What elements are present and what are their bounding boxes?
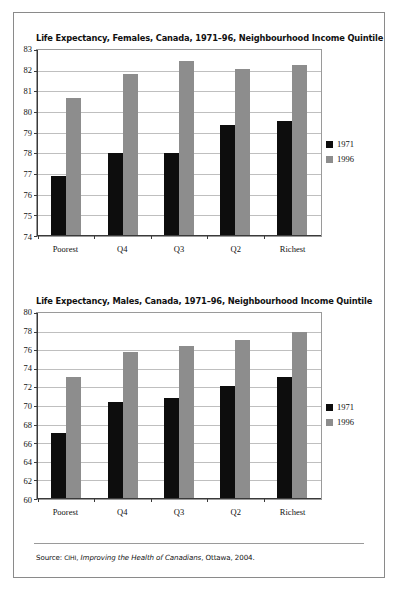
- legend-label-1996: 1996: [337, 154, 354, 164]
- x-tick-label: Q2: [207, 507, 264, 517]
- bar-1996: [179, 61, 194, 235]
- legend-label-1971: 1971: [337, 402, 354, 412]
- bar-1996: [66, 98, 81, 235]
- chart-panel-females: Life Expectancy, Females, Canada, 1971–9…: [14, 33, 384, 275]
- bars-layer-females: [38, 51, 320, 235]
- bar-group: [151, 51, 207, 235]
- x-tick-label: Richest: [264, 507, 321, 517]
- bar-group: [151, 314, 207, 498]
- y-tick-label: 64: [24, 457, 33, 467]
- source-publication: Improving the Health of Canadians: [81, 553, 202, 562]
- legend-swatch-1971-icon: [326, 404, 333, 411]
- legend-swatch-1996-icon: [326, 156, 333, 163]
- y-axis-males: [37, 313, 38, 499]
- y-tick-label: 78: [24, 148, 33, 158]
- y-tick-mark: [34, 443, 37, 444]
- plot-area-males: [36, 312, 322, 500]
- y-tick-label: 82: [24, 65, 33, 75]
- legend-item-1996: 1996: [326, 417, 382, 427]
- y-tick-mark: [34, 174, 37, 175]
- y-tick-mark: [34, 369, 37, 370]
- y-tick-label: 78: [24, 326, 33, 336]
- y-tick-label: 76: [24, 345, 33, 355]
- y-tick-mark: [34, 236, 37, 237]
- y-tick-mark: [34, 195, 37, 196]
- legend-females: 1971 1996: [326, 139, 382, 169]
- bar-1971: [220, 386, 235, 498]
- source-place-year: , Ottawa, 2004.: [201, 553, 254, 562]
- x-tick-labels-females: PoorestQ4Q3Q2Richest: [37, 244, 321, 254]
- y-tick-mark: [34, 71, 37, 72]
- y-tick-label: 74: [24, 363, 33, 373]
- y-tick-mark: [34, 313, 37, 314]
- legend-item-1971: 1971: [326, 402, 382, 412]
- bar-1971: [164, 153, 179, 235]
- bar-1971: [108, 402, 123, 498]
- bar-group: [94, 314, 150, 498]
- bar-1996: [66, 377, 81, 498]
- y-tick-mark: [34, 215, 37, 216]
- x-tick-label: Richest: [264, 244, 321, 254]
- y-tick-label: 72: [24, 382, 33, 392]
- legend-males: 1971 1996: [326, 402, 382, 432]
- chart-title-males: Life Expectancy, Males, Canada, 1971–96,…: [36, 296, 384, 306]
- bar-1971: [277, 121, 292, 235]
- y-tick-label: 60: [24, 495, 33, 505]
- y-tick-label: 70: [24, 401, 33, 411]
- bar-1971: [108, 153, 123, 235]
- y-tick-mark: [34, 425, 37, 426]
- bar-1971: [220, 125, 235, 235]
- bar-1971: [164, 398, 179, 498]
- legend-swatch-1996-icon: [326, 419, 333, 426]
- y-tick-label: 66: [24, 439, 33, 449]
- legend-item-1996: 1996: [326, 154, 382, 164]
- y-axis-females: [37, 50, 38, 236]
- y-tick-mark: [34, 480, 37, 481]
- source-organization: CIHI: [64, 554, 76, 561]
- y-tick-mark: [34, 499, 37, 500]
- plot-area-females: [36, 49, 322, 237]
- x-tick-label: Q3: [151, 507, 208, 517]
- y-tick-label: 68: [24, 420, 33, 430]
- chart-panel-males: Life Expectancy, Males, Canada, 1971–96,…: [14, 296, 384, 538]
- bar-group: [207, 314, 263, 498]
- y-tick-label: 80: [24, 307, 33, 317]
- x-tick-label: Q4: [94, 244, 151, 254]
- bar-group: [264, 314, 320, 498]
- source-divider: [34, 543, 364, 544]
- source-note: Source: CIHI, Improving the Health of Ca…: [36, 553, 255, 562]
- chart-body-females: 83828180797877767574 PoorestQ4Q3Q2Riches…: [36, 49, 322, 237]
- x-axis-males: [37, 498, 321, 499]
- bar-1996: [123, 352, 138, 498]
- bar-1971: [277, 377, 292, 498]
- bar-1996: [235, 340, 250, 498]
- y-tick-mark: [34, 350, 37, 351]
- bar-group: [207, 51, 263, 235]
- legend-swatch-1971-icon: [326, 141, 333, 148]
- y-tick-mark: [34, 406, 37, 407]
- y-tick-mark: [34, 133, 37, 134]
- x-tick-label: Poorest: [37, 507, 94, 517]
- bar-group: [38, 51, 94, 235]
- y-tick-label: 83: [24, 44, 33, 54]
- y-tick-label: 81: [24, 86, 33, 96]
- bar-group: [38, 314, 94, 498]
- legend-label-1971: 1971: [337, 139, 354, 149]
- y-tick-mark: [34, 332, 37, 333]
- bar-1971: [51, 176, 66, 235]
- y-tick-mark: [34, 50, 37, 51]
- bar-1996: [292, 65, 307, 235]
- y-tick-label: 77: [24, 169, 33, 179]
- bar-1996: [292, 332, 307, 498]
- x-tick-label: Q2: [207, 244, 264, 254]
- y-tick-label: 74: [24, 232, 33, 242]
- y-tick-mark: [34, 387, 37, 388]
- x-tick-label: Q4: [94, 507, 151, 517]
- bars-layer-males: [38, 314, 320, 498]
- y-tick-label: 62: [24, 476, 33, 486]
- legend-label-1996: 1996: [337, 417, 354, 427]
- y-tick-label: 75: [24, 211, 33, 221]
- y-tick-label: 79: [24, 128, 33, 138]
- bar-1996: [123, 74, 138, 236]
- legend-item-1971: 1971: [326, 139, 382, 149]
